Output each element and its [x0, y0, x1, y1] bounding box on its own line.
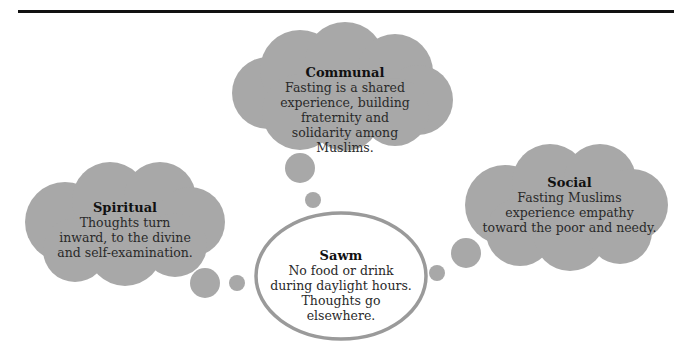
- cloud-text-spiritual: Thoughts turn inward, to the divine and …: [57, 215, 193, 260]
- cloud-title-social: Social: [482, 175, 657, 190]
- center-label-sawm: Sawm No food or drink during daylight ho…: [268, 248, 414, 323]
- center-text: No food or drink during daylight hours. …: [270, 263, 412, 323]
- cloud-title-communal: Communal: [270, 65, 420, 80]
- cloud-text-social: Fasting Muslims experience empathy towar…: [483, 190, 657, 235]
- center-title: Sawm: [268, 248, 414, 263]
- cloud-label-communal: Communal Fasting is a shared experience,…: [270, 65, 420, 155]
- cloud-label-spiritual: Spiritual Thoughts turn inward, to the d…: [55, 200, 195, 260]
- cloud-title-spiritual: Spiritual: [55, 200, 195, 215]
- cloud-text-communal: Fasting is a shared experience, building…: [280, 80, 410, 155]
- cloud-label-social: Social Fasting Muslims experience empath…: [482, 175, 657, 235]
